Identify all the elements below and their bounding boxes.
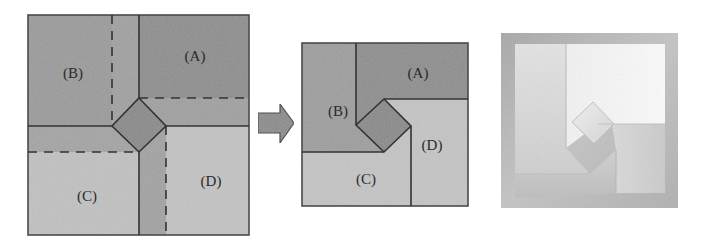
label-c: (C)	[356, 171, 376, 188]
label-d: (D)	[422, 137, 443, 154]
label-a: (A)	[408, 65, 429, 82]
label-b: (B)	[63, 65, 83, 82]
label-b: (B)	[328, 103, 348, 120]
right-arrow-icon	[258, 104, 294, 143]
folding-diagram: (A) (B) (C) (D) (A) (B) (C) (D)	[0, 0, 702, 249]
label-c: (C)	[77, 188, 97, 205]
label-a: (A)	[185, 48, 206, 65]
folded-paper-photo	[501, 33, 678, 208]
label-d: (D)	[201, 173, 222, 190]
folded-result-panel	[302, 43, 468, 206]
photo-flap-right	[612, 124, 665, 193]
